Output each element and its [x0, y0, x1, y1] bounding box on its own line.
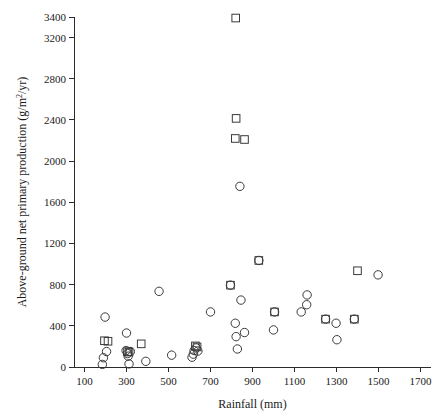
x-tick-label-1100: 1100 — [284, 375, 306, 387]
data-point-circle — [297, 308, 305, 316]
data-point-circle — [155, 287, 163, 295]
data-point-circle — [333, 336, 341, 344]
data-point-circle — [233, 345, 241, 353]
data-point-circle — [374, 271, 382, 279]
x-tick-label-1300: 1300 — [326, 375, 349, 387]
x-tick-label-900: 900 — [244, 375, 261, 387]
data-markers-group — [98, 14, 382, 368]
y-tick-label-0: 0 — [61, 361, 67, 373]
y-tick-label-2400: 2400 — [44, 114, 67, 126]
y-tick-label-2000: 2000 — [44, 155, 67, 167]
x-tick-label-700: 700 — [202, 375, 219, 387]
data-point-circle — [321, 315, 329, 323]
data-point-square — [232, 115, 240, 123]
data-point-square — [354, 267, 362, 275]
y-tick-label-2800: 2800 — [44, 73, 67, 85]
data-point-circle — [237, 296, 245, 304]
data-point-circle — [232, 332, 240, 340]
figure-container: 0400800120016002000240028003200340010030… — [0, 0, 437, 416]
y-tick-label-1200: 1200 — [44, 237, 67, 249]
x-axis-title: Rainfall (mm) — [218, 397, 286, 411]
y-axis-title: Above-ground net primary production (g/m… — [15, 77, 30, 308]
x-tick-label-300: 300 — [118, 375, 135, 387]
data-point-square — [241, 136, 249, 144]
y-tick-label-400: 400 — [50, 320, 67, 332]
data-point-circle — [270, 308, 278, 316]
tick-labels-group: 0400800120016002000240028003200340010030… — [44, 11, 432, 387]
data-point-circle — [101, 313, 109, 321]
x-tick-label-1700: 1700 — [410, 375, 433, 387]
data-point-circle — [206, 308, 214, 316]
data-point-square — [232, 14, 240, 22]
y-tick-label-3200: 3200 — [44, 32, 67, 44]
axes-group — [74, 17, 431, 367]
data-point-circle — [167, 351, 175, 359]
data-point-circle — [231, 319, 239, 327]
data-point-circle — [240, 328, 248, 336]
data-point-circle — [255, 256, 263, 264]
data-point-circle — [302, 301, 310, 309]
ticks-group — [69, 17, 421, 372]
data-point-circle — [226, 281, 234, 289]
x-tick-label-1500: 1500 — [368, 375, 391, 387]
data-point-circle — [350, 315, 358, 323]
data-point-circle — [303, 291, 311, 299]
data-point-square — [231, 135, 239, 143]
data-point-square — [137, 340, 145, 348]
x-tick-label-500: 500 — [160, 375, 177, 387]
x-tick-label-100: 100 — [76, 375, 93, 387]
y-tick-label-3400: 3400 — [44, 11, 67, 23]
scatter-plot: 0400800120016002000240028003200340010030… — [0, 0, 437, 416]
data-point-circle — [236, 182, 244, 190]
y-tick-label-800: 800 — [50, 279, 67, 291]
y-tick-label-1600: 1600 — [44, 196, 67, 208]
data-point-circle — [142, 357, 150, 365]
data-point-circle — [332, 319, 340, 327]
data-point-circle — [122, 329, 130, 337]
data-point-circle — [269, 326, 277, 334]
